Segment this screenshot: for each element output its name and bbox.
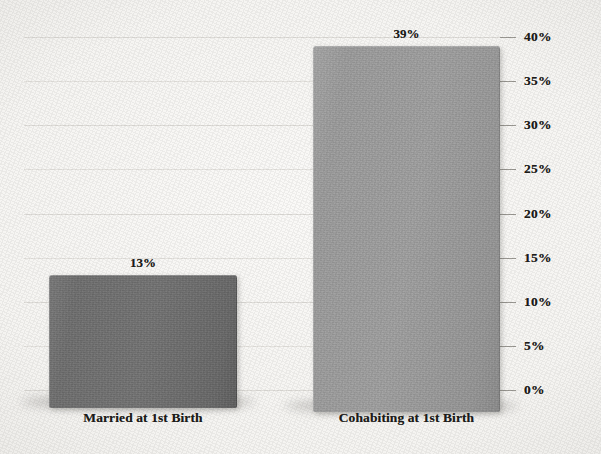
bar-texture <box>313 46 500 412</box>
gridline-40pct <box>24 37 516 38</box>
tick-dash-0pct <box>500 390 516 391</box>
y-tick-label-20pct: 20% <box>524 206 552 222</box>
bar-married-at-1st-birth[interactable] <box>49 275 237 408</box>
y-tick-label-5pct: 5% <box>524 338 545 354</box>
x-category-label-cohabiting-at-1st-birth: Cohabiting at 1st Birth <box>339 410 474 426</box>
bar-value-label-married-at-1st-birth: 13% <box>130 255 156 271</box>
tick-dash-20pct <box>500 214 516 215</box>
bar-cohabiting-at-1st-birth[interactable] <box>313 46 500 412</box>
bar-texture <box>49 275 237 408</box>
y-tick-label-15pct: 15% <box>524 250 552 266</box>
tick-dash-10pct <box>500 302 516 303</box>
tick-dash-5pct <box>500 346 516 347</box>
y-tick-label-25pct: 25% <box>524 161 552 177</box>
plot-area: 0%5%10%15%20%25%30%35%40% 13%39% Married… <box>0 0 601 454</box>
tick-dash-40pct <box>500 37 516 38</box>
bar-chart: 0%5%10%15%20%25%30%35%40% 13%39% Married… <box>0 0 601 454</box>
y-tick-label-40pct: 40% <box>524 29 552 45</box>
bar-value-label-cohabiting-at-1st-birth: 39% <box>394 26 420 42</box>
x-category-label-married-at-1st-birth: Married at 1st Birth <box>83 410 202 426</box>
y-tick-label-10pct: 10% <box>524 294 552 310</box>
y-tick-label-30pct: 30% <box>524 117 552 133</box>
y-tick-label-0pct: 0% <box>524 382 545 398</box>
tick-dash-30pct <box>500 125 516 126</box>
tick-dash-15pct <box>500 258 516 259</box>
tick-dash-35pct <box>500 81 516 82</box>
tick-dash-25pct <box>500 169 516 170</box>
y-tick-label-35pct: 35% <box>524 73 552 89</box>
